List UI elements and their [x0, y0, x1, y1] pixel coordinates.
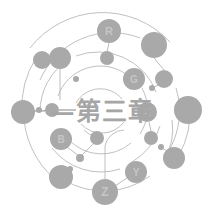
node-big-east[interactable]	[174, 96, 202, 124]
node-label-r: R	[105, 25, 113, 37]
node-southeast-big[interactable]	[163, 147, 185, 169]
node-label-b: B	[57, 134, 64, 145]
edge-x-to-esmall	[149, 122, 151, 131]
node-left-pair-a[interactable]	[33, 51, 51, 69]
node-b-lower[interactable]	[76, 154, 84, 162]
node-label-x: X	[144, 107, 151, 118]
node-mid-northeast[interactable]	[155, 70, 173, 88]
chapter-divider-figure: R G X B Y Z —第三章	[0, 0, 215, 224]
node-left-small[interactable]	[45, 103, 59, 117]
node-below-r[interactable]	[100, 51, 114, 65]
node-left-tiny[interactable]	[36, 107, 42, 113]
node-group	[11, 19, 202, 205]
node-southwest-tiny[interactable]	[67, 166, 73, 172]
orbit-arc-ring4-right	[168, 88, 180, 152]
node-label-z: Z	[101, 185, 108, 199]
edge-r-to-dot	[107, 43, 109, 52]
node-east-small[interactable]	[144, 131, 158, 145]
edge-bigne-to-midne	[154, 58, 164, 70]
orbit-arc-ring2-top	[58, 66, 126, 96]
node-label-y: Y	[133, 167, 140, 178]
node-tiny-east[interactable]	[158, 144, 164, 150]
orbit-arc-ring3-right	[132, 126, 160, 162]
network-diagram: R G X B Y Z	[0, 0, 215, 224]
edge-z-to-y	[115, 178, 127, 186]
orbit-arc-ring1-top	[76, 89, 122, 103]
node-big-northeast[interactable]	[141, 32, 167, 58]
node-tiny-upper-mid[interactable]	[73, 76, 79, 82]
node-left-big[interactable]	[11, 100, 35, 124]
node-b-right[interactable]	[90, 131, 104, 145]
node-tiny-northeast[interactable]	[149, 85, 155, 91]
node-label-g: G	[130, 74, 138, 85]
orbit-arc-ring3-top	[76, 52, 156, 92]
edge-b-to-lower	[67, 147, 79, 156]
node-left-pair-b[interactable]	[49, 47, 71, 69]
